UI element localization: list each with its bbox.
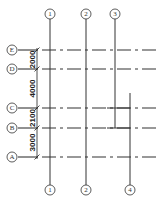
axis-label-D: D — [9, 65, 14, 73]
dimension-chain: 2000400021003000 — [28, 48, 40, 160]
axis-label-1-bottom: 1 — [48, 186, 52, 194]
axis-label-C: C — [10, 104, 15, 112]
dimension-C-B: 2100 — [28, 109, 37, 127]
axis-label-A: A — [9, 153, 14, 161]
axis-label-2-top: 2 — [84, 10, 88, 18]
axis-grid-plan: 2000400021003000 EDCBA112234 — [0, 0, 156, 205]
axis-label-2-bottom: 2 — [84, 186, 88, 194]
axis-label-B: B — [10, 124, 15, 132]
vertical-gridlines — [50, 19, 130, 185]
dimension-E-D: 2000 — [28, 50, 37, 68]
axis-label-E: E — [10, 46, 14, 54]
dimension-B-A: 3000 — [28, 133, 37, 151]
axis-label-1-top: 1 — [48, 10, 52, 18]
axis-bubbles: EDCBA112234 — [7, 9, 135, 195]
dimension-D-C: 4000 — [28, 79, 37, 97]
axis-label-3-top: 3 — [113, 10, 117, 18]
axis-label-4-bottom: 4 — [128, 186, 132, 194]
horizontal-gridlines — [18, 50, 156, 157]
